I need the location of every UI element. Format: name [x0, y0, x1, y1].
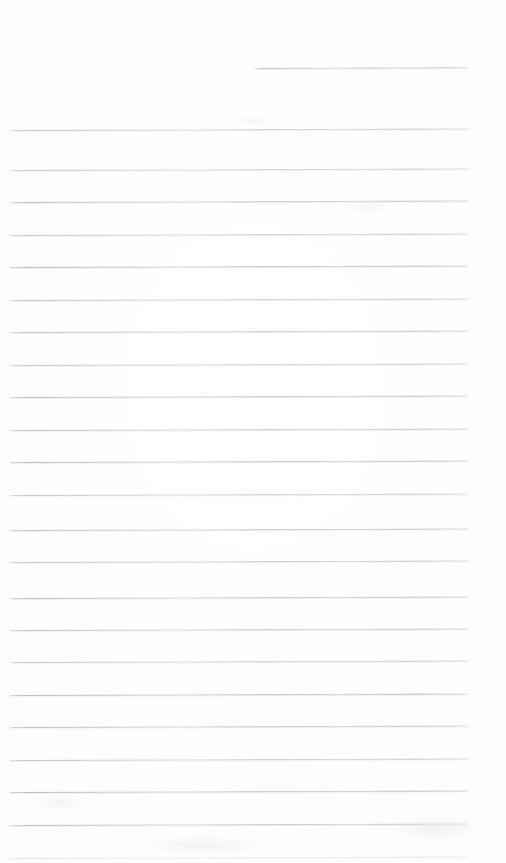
- rule-line: [10, 759, 468, 761]
- rule-line: [10, 234, 468, 236]
- rule-line: [10, 561, 468, 563]
- rule-line: [10, 791, 468, 793]
- rule-line: [10, 694, 468, 696]
- rule-line: [10, 461, 468, 463]
- rule-line: [10, 266, 468, 268]
- rule-line: [10, 824, 468, 826]
- rule-line: [10, 364, 468, 366]
- rule-line: [10, 129, 468, 131]
- rule-line: [10, 396, 468, 398]
- rule-line: [10, 494, 468, 496]
- rule-line: [10, 429, 468, 431]
- rule-line: [10, 169, 468, 171]
- rule-line: [10, 597, 468, 599]
- rule-line: [10, 629, 468, 631]
- notebook-page: [0, 0, 506, 863]
- rule-line: [10, 529, 468, 531]
- rule-line: [10, 726, 468, 728]
- rule-line: [10, 331, 468, 333]
- rule-line-partial: [255, 67, 468, 69]
- rule-line: [10, 857, 468, 859]
- rule-line: [10, 661, 468, 663]
- rule-line: [10, 299, 468, 301]
- rule-line: [10, 201, 468, 203]
